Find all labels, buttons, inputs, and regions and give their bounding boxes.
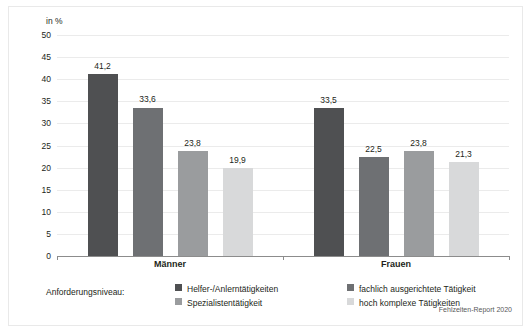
bar: [133, 108, 163, 257]
bar-value-label: 22,5: [351, 144, 397, 154]
y-axis-tick-label: 25: [29, 141, 51, 151]
bar-value-label: 19,9: [215, 155, 261, 165]
bar: [178, 151, 208, 256]
bar-value-label: 33,6: [125, 94, 171, 104]
chart-figure: in % Anforderungsniveau: Helfer-/Anlernt…: [0, 0, 532, 334]
legend-title: Anforderungsniveau:: [46, 287, 124, 297]
bar: [314, 108, 344, 256]
legend-label: fachlich ausgerichtete Tätigkeit: [359, 283, 476, 295]
x-axis-tick: [509, 256, 510, 260]
x-axis-group-label: Männer: [100, 259, 240, 269]
gridline: [57, 234, 509, 235]
bar-value-label: 23,8: [170, 138, 216, 148]
y-axis-tick-label: 5: [29, 229, 51, 239]
legend-item[interactable]: Helfer-/Anlerntätigkeiten: [175, 282, 278, 294]
x-axis-tick: [57, 256, 58, 260]
bar: [404, 151, 434, 256]
legend-swatch: [347, 298, 354, 305]
x-axis-tick: [283, 256, 284, 260]
legend-label: Spezialistentätigkeit: [187, 297, 262, 309]
legend-swatch: [175, 284, 182, 291]
gridline: [57, 123, 509, 124]
legend-item[interactable]: Spezialistentätigkeit: [175, 296, 262, 308]
bar-value-label: 23,8: [396, 138, 442, 148]
gridline: [57, 212, 509, 213]
bar-value-label: 41,2: [80, 61, 126, 71]
bar-value-label: 21,3: [441, 149, 487, 159]
bar: [449, 162, 479, 256]
bar-value-label: 33,5: [306, 95, 352, 105]
legend-item[interactable]: fachlich ausgerichtete Tätigkeit: [347, 282, 476, 294]
y-axis-tick-label: 50: [29, 30, 51, 40]
gridline: [57, 190, 509, 191]
y-axis-tick-label: 45: [29, 52, 51, 62]
y-axis-tick-label: 30: [29, 118, 51, 128]
bar: [359, 157, 389, 256]
legend-label: Helfer-/Anlerntätigkeiten: [187, 283, 278, 295]
y-axis-tick-label: 40: [29, 74, 51, 84]
bar: [88, 74, 118, 256]
gridline: [57, 168, 509, 169]
x-axis-group-label: Frauen: [326, 259, 466, 269]
y-axis-tick-label: 10: [29, 207, 51, 217]
y-axis-tick-label: 35: [29, 96, 51, 106]
source-credit: Fehlzeiten-Report 2020: [439, 306, 512, 313]
legend-swatch: [347, 284, 354, 291]
gridline: [57, 79, 509, 80]
y-axis-tick-label: 20: [29, 163, 51, 173]
legend-swatch: [175, 298, 182, 305]
y-axis-unit-label: in %: [46, 16, 63, 26]
y-axis-tick-label: 0: [29, 251, 51, 261]
gridline: [57, 57, 509, 58]
gridline: [57, 35, 509, 36]
bar: [223, 168, 253, 256]
y-axis-tick-label: 15: [29, 185, 51, 195]
